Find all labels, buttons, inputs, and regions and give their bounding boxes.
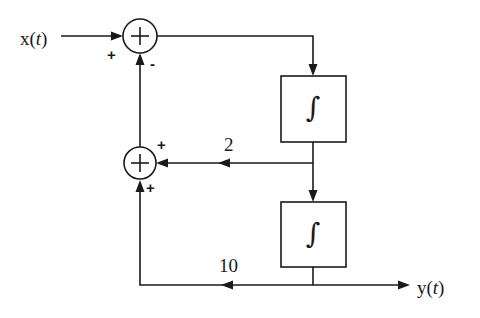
sign-top-left: + — [107, 46, 116, 63]
gain-2-label: 2 — [224, 134, 234, 155]
summer-top — [123, 19, 157, 53]
block-diagram: x(t) + - ∫ 2 + + ∫ 10 y(t) — [0, 0, 480, 318]
arrow-icon — [398, 281, 410, 290]
arrow-icon — [309, 64, 318, 76]
sign-top-bottom: - — [150, 55, 155, 72]
summer-bottom — [124, 147, 156, 179]
arrow-icon — [156, 159, 168, 168]
sign-bottom-right: + — [157, 136, 166, 153]
sign-bottom-bottom: + — [146, 179, 155, 196]
arrow-icon — [111, 32, 123, 41]
gain-10-label: 10 — [219, 255, 238, 276]
output-label: y(t) — [417, 277, 444, 299]
arrow-icon — [136, 180, 145, 192]
wire-summer-to-int1 — [157, 36, 313, 70]
arrow-icon — [309, 190, 318, 202]
arrow-icon — [218, 159, 230, 168]
arrow-icon — [136, 53, 145, 65]
arrow-icon — [221, 281, 233, 290]
integral-icon: ∫ — [306, 217, 321, 250]
integral-icon: ∫ — [306, 91, 321, 124]
input-label: x(t) — [20, 28, 47, 50]
